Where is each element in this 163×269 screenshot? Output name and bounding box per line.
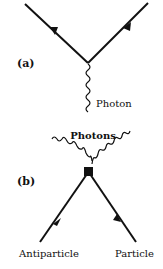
antiparticle-line [40, 174, 87, 242]
particle-line [90, 174, 136, 242]
panel-a-label: (a) [17, 57, 35, 70]
panel-a: (a) Photon [17, 3, 148, 112]
photons-label: Photons [70, 130, 116, 141]
panel-b: Photons (b) Antiparticle Particle [17, 130, 154, 259]
fermion-line-left [25, 4, 88, 63]
photon-wave [86, 64, 90, 112]
antiparticle-label: Antiparticle [18, 248, 79, 259]
feynman-diagrams: (a) Photon Photons (b) Antiparticle Part… [0, 0, 163, 269]
fermion-line-right [88, 3, 148, 63]
panel-b-label: (b) [17, 175, 35, 188]
photon-label: Photon [96, 98, 132, 109]
particle-label: Particle [115, 248, 154, 259]
